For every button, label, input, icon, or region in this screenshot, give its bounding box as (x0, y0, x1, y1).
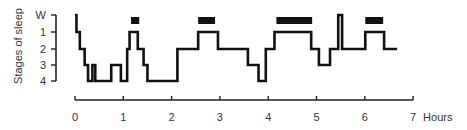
y-tick-label: 2 (40, 43, 46, 55)
rem-bar (198, 17, 215, 24)
y-tick-label: 1 (40, 26, 46, 38)
y-tick-label: 4 (40, 75, 46, 87)
sleep-stage-trace (75, 15, 397, 81)
x-tick-label: 1 (120, 111, 126, 123)
rem-bar (365, 17, 383, 24)
x-tick-label: 7 (410, 111, 416, 123)
rem-bar (131, 17, 139, 24)
y-tick-label: 3 (40, 59, 46, 71)
x-axis-label: Hours (423, 111, 453, 123)
x-tick-label: 3 (217, 111, 223, 123)
x-tick-label: 6 (362, 111, 368, 123)
x-tick-label: 4 (265, 111, 271, 123)
x-tick-label: 5 (313, 111, 319, 123)
x-tick-label: 0 (72, 111, 78, 123)
x-tick-label: 2 (169, 111, 175, 123)
rem-bar (276, 17, 312, 24)
y-tick-label: W (36, 9, 47, 21)
chart-canvas: W123401234567Hours (0, 0, 467, 130)
